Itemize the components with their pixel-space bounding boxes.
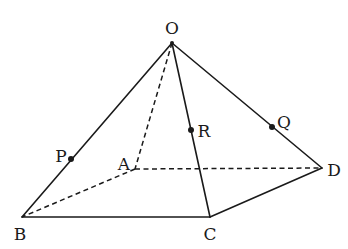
point-Q xyxy=(269,124,275,130)
label-P: P xyxy=(55,146,66,166)
point-O xyxy=(170,41,174,45)
edge-OA xyxy=(135,43,172,169)
label-B: B xyxy=(14,224,27,244)
point-P xyxy=(68,156,74,162)
label-D: D xyxy=(327,160,341,180)
edge-AB xyxy=(22,169,135,217)
label-A: A xyxy=(117,154,131,174)
point-R xyxy=(188,127,194,133)
label-C: C xyxy=(203,224,216,244)
edge-OB xyxy=(22,43,172,217)
pyramid-diagram: O A B C D P R Q xyxy=(0,0,348,249)
label-Q: Q xyxy=(277,112,291,132)
edge-CD xyxy=(210,168,322,217)
label-R: R xyxy=(198,121,212,141)
edge-AD xyxy=(135,168,322,169)
label-O: O xyxy=(165,18,179,38)
